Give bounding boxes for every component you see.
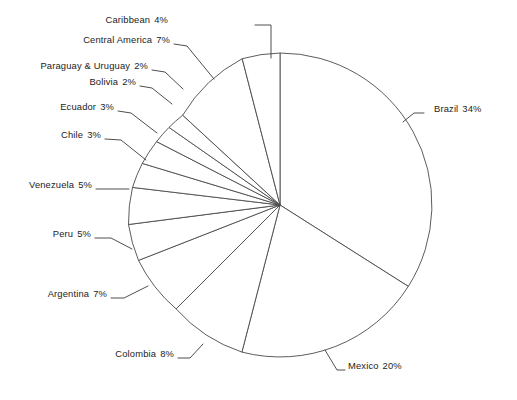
pie-label-chile-value: 3% <box>87 129 101 140</box>
pie-label-brazil-value: 34% <box>462 103 481 114</box>
pie-label-caribbean-name: Caribbean <box>106 14 151 25</box>
leader-line-argentina <box>111 286 148 298</box>
pie-label-venezuela-value: 5% <box>78 179 92 190</box>
pie-label-caribbean-value: 4% <box>154 14 168 25</box>
leader-line-colombia <box>178 344 203 358</box>
pie-label-paraguay-uruguay[interactable]: Paraguay & Uruguay2% <box>40 60 148 71</box>
pie-label-peru-value: 5% <box>77 228 91 239</box>
pie-label-bolivia[interactable]: Bolivia2% <box>89 76 136 87</box>
pie-label-brazil[interactable]: Brazil34% <box>434 103 482 114</box>
leader-line-mexico <box>325 350 345 370</box>
leader-line-ecuador <box>118 111 157 133</box>
leader-line-chile <box>105 139 146 160</box>
leader-line-peru <box>95 238 132 249</box>
pie-label-mexico-value: 20% <box>383 360 402 371</box>
pie-label-venezuela[interactable]: Venezuela5% <box>29 179 92 190</box>
pie-label-mexico[interactable]: Mexico20% <box>348 360 402 371</box>
pie-label-central-america[interactable]: Central America7% <box>83 34 170 45</box>
pie-label-brazil-name: Brazil <box>434 103 458 114</box>
pie-label-mexico-name: Mexico <box>348 360 379 371</box>
pie-label-colombia-value: 8% <box>160 348 174 359</box>
pie-label-venezuela-name: Venezuela <box>29 179 74 190</box>
leader-line-bolivia <box>140 86 172 104</box>
pie-label-bolivia-value: 2% <box>122 76 136 87</box>
pie-label-central-america-name: Central America <box>83 34 152 45</box>
pie-label-peru-name: Peru <box>53 228 73 239</box>
pie-label-argentina[interactable]: Argentina7% <box>48 288 107 299</box>
pie-label-argentina-value: 7% <box>93 288 107 299</box>
leader-line-caribbean <box>255 25 271 58</box>
pie-slices <box>128 53 431 357</box>
pie-chart-figure: Caribbean4% Central America7% Paraguay &… <box>0 0 517 400</box>
leader-line-central-america <box>174 44 214 79</box>
pie-label-central-america-value: 7% <box>156 34 170 45</box>
pie-label-paraguay-uruguay-value: 2% <box>134 60 148 71</box>
pie-label-argentina-name: Argentina <box>48 288 89 299</box>
pie-label-colombia-name: Colombia <box>115 348 156 359</box>
pie-label-peru[interactable]: Peru5% <box>53 228 91 239</box>
pie-label-ecuador-value: 3% <box>100 101 114 112</box>
pie-label-bolivia-name: Bolivia <box>89 76 118 87</box>
pie-label-paraguay-uruguay-name: Paraguay & Uruguay <box>40 60 130 71</box>
pie-label-ecuador-name: Ecuador <box>60 101 96 112</box>
leader-line-paraguay-uruguay <box>152 70 183 89</box>
pie-label-chile-name: Chile <box>61 129 83 140</box>
pie-label-caribbean[interactable]: Caribbean4% <box>106 14 168 25</box>
pie-label-ecuador[interactable]: Ecuador3% <box>60 101 114 112</box>
pie-label-colombia[interactable]: Colombia8% <box>115 348 174 359</box>
pie-label-chile[interactable]: Chile3% <box>61 129 101 140</box>
